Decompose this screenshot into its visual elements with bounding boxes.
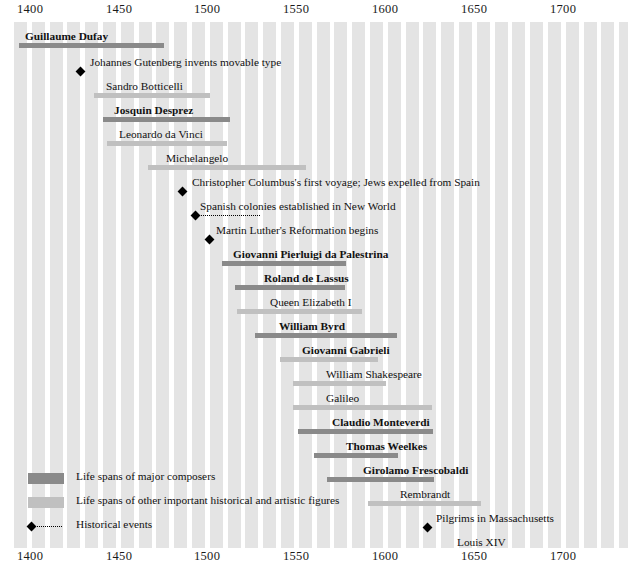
timeline-row[interactable]: Thomas Weelkes xyxy=(14,440,628,461)
historical-event-diamond-icon xyxy=(76,67,86,77)
axis-top: 1400145015001550160016501700 xyxy=(0,2,640,22)
event-duration-dotted-line xyxy=(198,215,260,216)
timeline-row-label: Giovanni Gabrieli xyxy=(302,344,390,356)
timeline-row[interactable]: William Shakespeare xyxy=(14,368,628,389)
figure-lifespan-bar[interactable] xyxy=(237,309,362,314)
timeline-chart: 1400145015001550160016501700 Guillaume D… xyxy=(0,0,640,572)
timeline-row[interactable]: Giovanni Pierluigi da Palestrina xyxy=(14,248,628,269)
timeline-row-label: Thomas Weelkes xyxy=(346,440,427,452)
timeline-row-label: Spanish colonies established in New Worl… xyxy=(200,200,396,212)
timeline-row-label: Roland de Lassus xyxy=(264,272,349,284)
composer-lifespan-bar[interactable] xyxy=(314,453,398,458)
composer-lifespan-bar[interactable] xyxy=(235,285,345,290)
timeline-row[interactable]: Roland de Lassus xyxy=(14,272,628,293)
timeline-row-label: Galileo xyxy=(326,392,359,404)
timeline-row-label: Leonardo da Vinci xyxy=(119,128,203,140)
axis-bottom-tick-1650: 1650 xyxy=(461,549,487,564)
timeline-row-label: Sandro Botticelli xyxy=(106,80,183,92)
composer-lifespan-bar[interactable] xyxy=(19,43,164,48)
timeline-row-label: Michelangelo xyxy=(166,152,228,164)
timeline-row-label: Pilgrims in Massachusetts xyxy=(436,512,554,524)
timeline-row[interactable]: Michelangelo xyxy=(14,152,628,173)
timeline-row-label: Guillaume Dufay xyxy=(25,30,108,42)
timeline-row[interactable]: William Byrd xyxy=(14,320,628,341)
timeline-row-label: Johannes Gutenberg invents movable type xyxy=(90,56,281,68)
historical-event-diamond-icon xyxy=(423,523,433,533)
axis-top-tick-1650: 1650 xyxy=(461,2,487,17)
timeline-row[interactable]: Christopher Columbus's first voyage; Jew… xyxy=(14,176,628,197)
axis-bottom: 1400145015001550160016501700 xyxy=(0,549,640,569)
timeline-row-label: Giovanni Pierluigi da Palestrina xyxy=(233,248,388,260)
axis-bottom-tick-1500: 1500 xyxy=(194,549,220,564)
timeline-row-label: William Shakespeare xyxy=(326,368,422,380)
figure-lifespan-bar[interactable] xyxy=(94,93,210,98)
timeline-row-label: Christopher Columbus's first voyage; Jew… xyxy=(192,176,480,188)
timeline-row[interactable]: Martin Luther's Reformation begins xyxy=(14,224,628,245)
legend-label: Life spans of other important historical… xyxy=(76,494,340,506)
timeline-row-label: Claudio Monteverdi xyxy=(332,416,430,428)
timeline-row[interactable]: Guillaume Dufay xyxy=(14,30,628,51)
timeline-row[interactable]: Sandro Botticelli xyxy=(14,80,628,101)
timeline-row[interactable]: Spanish colonies established in New Worl… xyxy=(14,200,628,221)
timeline-row[interactable]: Josquin Desprez xyxy=(14,104,628,125)
legend-swatch-figure xyxy=(28,497,64,508)
composer-lifespan-bar[interactable] xyxy=(298,429,433,434)
timeline-row-label: Girolamo Frescobaldi xyxy=(363,464,468,476)
axis-bottom-tick-1600: 1600 xyxy=(372,549,398,564)
axis-top-tick-1700: 1700 xyxy=(550,2,576,17)
legend-swatch-composer xyxy=(28,473,64,484)
composer-lifespan-bar[interactable] xyxy=(222,261,346,266)
figure-lifespan-bar[interactable] xyxy=(293,381,386,386)
timeline-row-label: Rembrandt xyxy=(400,488,450,500)
timeline-row[interactable]: Johannes Gutenberg invents movable type xyxy=(14,56,628,77)
timeline-row[interactable]: Louis XIV xyxy=(14,536,628,548)
axis-bottom-tick-1450: 1450 xyxy=(106,549,132,564)
figure-lifespan-bar[interactable] xyxy=(148,165,306,170)
figure-lifespan-bar[interactable] xyxy=(107,141,227,146)
timeline-row-label: Josquin Desprez xyxy=(114,104,193,116)
timeline-row[interactable]: Queen Elizabeth I xyxy=(14,296,628,317)
axis-top-tick-1550: 1550 xyxy=(283,2,309,17)
figure-lifespan-bar[interactable] xyxy=(293,405,432,410)
historical-event-diamond-icon xyxy=(178,187,188,197)
composer-lifespan-bar[interactable] xyxy=(255,333,397,338)
legend-label: Historical events xyxy=(76,518,152,530)
axis-bottom-tick-1700: 1700 xyxy=(550,549,576,564)
legend-label: Life spans of major composers xyxy=(76,470,215,482)
legend-event-diamond-icon xyxy=(28,522,64,531)
historical-event-diamond-icon xyxy=(205,235,215,245)
figure-lifespan-bar[interactable] xyxy=(280,357,378,362)
axis-top-tick-1450: 1450 xyxy=(106,2,132,17)
axis-bottom-tick-1400: 1400 xyxy=(17,549,43,564)
timeline-row-label: Queen Elizabeth I xyxy=(270,296,352,308)
timeline-row[interactable]: Claudio Monteverdi xyxy=(14,416,628,437)
axis-top-tick-1400: 1400 xyxy=(17,2,43,17)
timeline-row-label: William Byrd xyxy=(279,320,345,332)
axis-bottom-tick-1550: 1550 xyxy=(283,549,309,564)
historical-event-diamond-icon xyxy=(191,211,201,221)
axis-top-tick-1500: 1500 xyxy=(194,2,220,17)
figure-lifespan-bar[interactable] xyxy=(368,501,481,506)
timeline-row[interactable]: Galileo xyxy=(14,392,628,413)
timeline-row[interactable]: Giovanni Gabrieli xyxy=(14,344,628,365)
timeline-row-label: Martin Luther's Reformation begins xyxy=(216,224,378,236)
timeline-row-label: Louis XIV xyxy=(457,536,506,548)
timeline-row[interactable]: Leonardo da Vinci xyxy=(14,128,628,149)
axis-top-tick-1600: 1600 xyxy=(372,2,398,17)
composer-lifespan-bar[interactable] xyxy=(327,477,434,482)
composer-lifespan-bar[interactable] xyxy=(103,117,230,122)
